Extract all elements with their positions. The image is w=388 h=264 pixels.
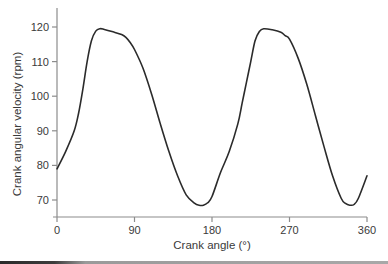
x-tick-label: 180 [203,224,221,236]
x-tick-label: 0 [54,224,60,236]
line-chart: 708090100110120 090180270360 Crank angle… [0,0,388,264]
velocity-curve [57,29,367,206]
y-axis-title: Crank angular velocity (rpm) [11,52,23,197]
x-tick-label: 360 [358,224,376,236]
x-tick-label: 90 [128,224,140,236]
x-axis: 090180270360 [53,217,376,236]
y-tick-label: 110 [31,56,49,68]
y-tick-label: 70 [37,194,49,206]
x-tick-label: 270 [280,224,298,236]
y-tick-label: 80 [37,159,49,171]
y-tick-label: 100 [31,90,49,102]
y-axis: 708090100110120 [31,8,57,217]
y-tick-label: 90 [37,125,49,137]
x-axis-title: Crank angle (°) [173,239,251,251]
y-tick-label: 120 [31,21,49,33]
